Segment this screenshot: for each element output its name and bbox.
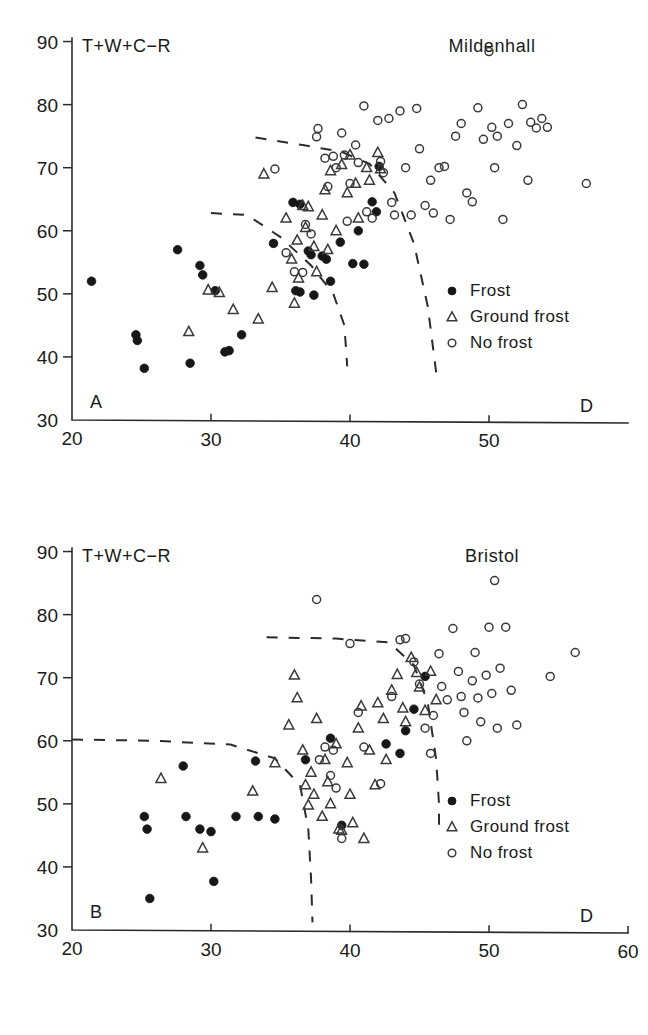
data-point [365,175,375,184]
data-point [87,277,96,286]
legend-label: No frost [470,843,533,862]
data-point [156,773,166,782]
data-point [532,124,540,132]
data-point [184,326,194,335]
data-point [488,690,496,698]
data-point [491,164,499,172]
data-point [140,364,149,373]
data-point [259,169,269,178]
data-point [524,176,532,184]
x-tick-label: 20 [61,428,82,449]
data-point [402,164,410,172]
data-point [332,784,340,792]
data-point [317,210,327,219]
data-point [426,666,436,675]
x-axis-title: D [580,396,594,416]
data-point [336,238,345,247]
data-point [413,104,421,112]
data-point [407,211,415,219]
data-point [479,135,487,143]
data-point [282,249,290,257]
series-no-frost [313,577,580,843]
data-point [317,811,327,820]
data-point [314,125,322,133]
data-point [133,336,142,345]
series-frost [87,162,383,373]
data-point [353,213,363,222]
data-point [225,346,234,355]
data-point [269,239,278,248]
data-point [196,261,205,270]
data-point [502,623,510,631]
data-point [281,213,291,222]
data-point [310,291,319,300]
y-tick-label: 80 [37,95,58,116]
data-point [296,288,305,297]
data-point [381,754,391,763]
data-point [313,133,321,141]
data-point [471,649,479,657]
data-point [401,726,410,735]
data-point [198,271,207,280]
y-tick-label: 50 [37,284,58,305]
data-point [299,268,307,276]
data-point [326,798,336,807]
data-point [457,120,465,128]
data-point [468,198,476,206]
data-point [143,825,152,834]
legend-marker-open-circle [448,339,456,347]
legend-label: Frost [470,791,511,810]
panel-title: Bristol [465,546,519,566]
series-frost [140,672,429,903]
data-point [468,677,476,685]
data-point [326,277,335,286]
data-point [301,755,310,764]
x-tick-label: 30 [200,939,221,960]
data-point [312,713,322,722]
data-point [396,636,404,644]
data-point [309,789,319,798]
figure-frost-discrimination: 4050607080903020304050T+W+C−RDMildenhall… [0,0,648,1035]
data-point [427,176,435,184]
data-point [543,123,551,131]
data-point [207,827,216,836]
data-point [329,152,337,160]
data-point [452,132,460,140]
data-point [373,147,383,156]
data-point [427,749,435,757]
data-point [435,650,443,658]
data-point [338,129,346,137]
data-point [326,734,335,743]
x-tick-label: 30 [200,429,221,450]
data-point [538,115,546,123]
data-point [388,198,396,206]
data-point [513,142,521,150]
data-point [443,696,451,704]
legend-label: Frost [470,281,511,300]
data-point [518,101,526,109]
data-point [360,260,369,269]
data-point [345,789,355,798]
y-tick-label: 60 [37,221,58,242]
data-point [228,304,238,313]
data-point [306,767,316,776]
chart-panel-mildenhall: 4050607080903020304050T+W+C−RDMildenhall… [0,0,648,510]
data-point [491,577,499,585]
y-tick-label: 70 [37,668,58,689]
legend-marker-filled-circle [448,287,456,295]
data-point [493,724,501,732]
data-point [505,120,513,128]
y-tick-label: 80 [37,605,58,626]
panel-letter: B [90,902,102,922]
data-point [457,693,465,701]
data-point [254,812,263,821]
legend: FrostGround frostNo frost [447,281,569,352]
y-tick-label: 30 [37,410,58,431]
x-tick-label: 50 [478,430,499,451]
data-point [237,331,246,340]
x-axis-title: D [580,906,594,926]
data-point [287,254,297,263]
data-point [323,244,333,253]
data-point [313,596,321,604]
data-point [438,683,446,691]
